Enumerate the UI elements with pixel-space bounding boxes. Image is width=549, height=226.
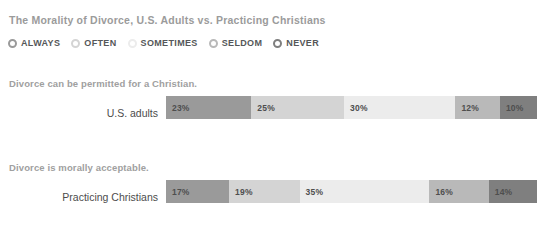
legend-item-label: SOMETIMES — [141, 38, 198, 48]
bar-segment-label: 12% — [461, 103, 479, 113]
stacked-bar: 17% 19% 35% 16% 14% — [166, 180, 537, 203]
bar-segment[interactable]: 16% — [429, 180, 488, 203]
bar-segment-label: 19% — [235, 187, 253, 197]
section-heading: Divorce is morally acceptable. — [9, 162, 149, 173]
bar-segment[interactable]: 14% — [489, 180, 537, 203]
bar-segment-label: 17% — [172, 187, 190, 197]
bar-segment-label: 30% — [350, 103, 368, 113]
bar-segment[interactable]: 30% — [344, 96, 455, 119]
legend-item-label: ALWAYS — [21, 38, 60, 48]
bar-row-label: U.S. adults — [0, 107, 158, 119]
bar-segment-label: 23% — [172, 103, 190, 113]
bar-segment[interactable]: 25% — [251, 96, 344, 119]
bar-segment-label: 14% — [495, 187, 513, 197]
bar-segment-label: 35% — [306, 187, 324, 197]
legend-item-always[interactable]: ALWAYS — [8, 38, 60, 48]
bar-segment[interactable]: 19% — [229, 180, 299, 203]
legend-item-label: SELDOM — [222, 38, 263, 48]
legend: ALWAYS OFTEN SOMETIMES SELDOM NEVER — [8, 38, 330, 48]
radio-circle-icon — [71, 39, 80, 48]
legend-item-label: NEVER — [286, 38, 319, 48]
radio-circle-icon — [8, 39, 17, 48]
legend-item-label: OFTEN — [84, 38, 116, 48]
bar-segment[interactable]: 12% — [455, 96, 500, 119]
legend-item-often[interactable]: OFTEN — [71, 38, 116, 48]
bar-segment-label: 16% — [435, 187, 453, 197]
legend-item-seldom[interactable]: SELDOM — [209, 38, 263, 48]
section-heading: Divorce can be permitted for a Christian… — [9, 78, 197, 89]
bar-segment[interactable]: 23% — [166, 96, 251, 119]
radio-circle-icon — [209, 39, 218, 48]
bar-row-label: Practicing Christians — [0, 191, 158, 203]
bar-segment[interactable]: 35% — [300, 180, 430, 203]
stacked-bar: 23% 25% 30% 12% 10% — [166, 96, 537, 119]
radio-circle-icon — [128, 39, 137, 48]
chart-title: The Morality of Divorce, U.S. Adults vs.… — [9, 14, 326, 26]
bar-segment[interactable]: 10% — [500, 96, 537, 119]
legend-item-sometimes[interactable]: SOMETIMES — [128, 38, 198, 48]
bar-segment[interactable]: 17% — [166, 180, 229, 203]
legend-item-never[interactable]: NEVER — [273, 38, 319, 48]
radio-circle-icon — [273, 39, 282, 48]
bar-segment-label: 10% — [506, 103, 524, 113]
bar-segment-label: 25% — [257, 103, 275, 113]
